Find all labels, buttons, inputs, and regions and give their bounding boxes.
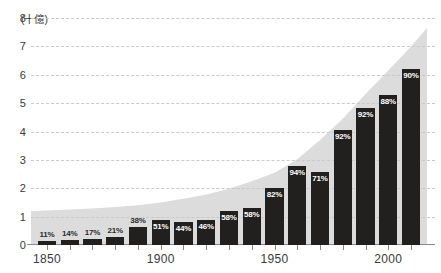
x-axis-tick [229, 245, 230, 250]
x-axis-tick [297, 245, 298, 250]
bar-group[interactable]: 21% [106, 18, 124, 245]
y-axis-tick-label: 6 [20, 69, 26, 81]
x-axis-tick-label: 1850 [33, 252, 61, 266]
plot-area: 012345678 11%14%17%21%38%51%44%46%58%58%… [31, 18, 427, 245]
x-axis-tick [92, 245, 93, 250]
x-axis-tick [115, 245, 116, 250]
bar[interactable]: 82% [265, 188, 283, 245]
bar[interactable]: 94% [288, 166, 306, 245]
y-axis-tick-label: 5 [20, 97, 26, 109]
x-axis-tick-label: 1900 [147, 252, 175, 266]
bar[interactable]: 44% [174, 222, 192, 245]
bar-group[interactable]: 94% [288, 18, 306, 245]
bar[interactable]: 90% [402, 69, 420, 245]
bar-group[interactable]: 17% [83, 18, 101, 245]
bar-value-label: 82% [265, 190, 283, 199]
bar-value-label: 51% [152, 222, 170, 231]
x-axis-tick [183, 245, 184, 250]
bar-value-label: 46% [197, 222, 215, 231]
bar-group[interactable]: 71% [311, 18, 329, 245]
y-axis-tick-label: 3 [20, 154, 26, 166]
x-axis-tick-label: 1950 [261, 252, 289, 266]
x-axis-tick-label: 2000 [374, 252, 402, 266]
bar[interactable]: 38% [129, 227, 147, 245]
bar-value-label: 21% [106, 226, 124, 235]
bar-value-label: 11% [38, 230, 56, 239]
bar[interactable]: 21% [106, 237, 124, 245]
bar-group[interactable]: 82% [265, 18, 283, 245]
bar-value-label: 38% [129, 216, 147, 225]
bar-group[interactable]: 46% [197, 18, 215, 245]
bar-series: 11%14%17%21%38%51%44%46%58%58%82%94%71%9… [31, 18, 427, 245]
y-axis-tick-label: 4 [20, 126, 26, 138]
bar-value-label: 92% [356, 110, 374, 119]
bar-value-label: 90% [402, 71, 420, 80]
bar[interactable]: 71% [311, 172, 329, 245]
bar-group[interactable]: 58% [220, 18, 238, 245]
bar-group[interactable]: 51% [152, 18, 170, 245]
x-axis-tick [252, 245, 253, 250]
bar[interactable]: 46% [197, 220, 215, 245]
bar-group[interactable]: 44% [174, 18, 192, 245]
y-axis-tick-label: 2 [20, 182, 26, 194]
bar-value-label: 58% [243, 210, 261, 219]
bar-group[interactable]: 58% [243, 18, 261, 245]
y-axis-tick-label: 8 [20, 12, 26, 24]
bar-value-label: 58% [220, 213, 238, 222]
bar-group[interactable]: 92% [356, 18, 374, 245]
bar-value-label: 94% [288, 168, 306, 177]
bar[interactable]: 58% [220, 211, 238, 245]
bar-group[interactable]: 11% [38, 18, 56, 245]
x-axis-tick [70, 245, 71, 250]
x-axis-tick [138, 245, 139, 250]
y-axis-tick-label: 0 [20, 239, 26, 251]
bar-value-label: 44% [174, 224, 192, 233]
bar[interactable]: 92% [334, 130, 352, 245]
bar[interactable]: 51% [152, 220, 170, 245]
y-axis-tick-label: 7 [20, 40, 26, 52]
x-axis-tick [206, 245, 207, 250]
bar-value-label: 92% [334, 132, 352, 141]
x-axis-tick [47, 245, 48, 250]
bar[interactable]: 88% [379, 95, 397, 245]
bar-value-label: 17% [83, 228, 101, 237]
x-axis-tick [161, 245, 162, 250]
bar-value-label: 88% [379, 97, 397, 106]
x-axis-tick [343, 245, 344, 250]
bar-group[interactable]: 92% [334, 18, 352, 245]
x-axis-tick [388, 245, 389, 250]
bar-value-label: 14% [61, 229, 79, 238]
bar-group[interactable]: 88% [379, 18, 397, 245]
bar-value-label: 71% [311, 174, 329, 183]
y-axis-tick-label: 1 [20, 211, 26, 223]
x-axis-tick [275, 245, 276, 250]
bar-group[interactable]: 38% [129, 18, 147, 245]
x-axis-tick [320, 245, 321, 250]
bar-group[interactable]: 14% [61, 18, 79, 245]
bar[interactable]: 92% [356, 108, 374, 245]
x-axis-tick [366, 245, 367, 250]
bar[interactable]: 58% [243, 208, 261, 245]
chart-container: (十億) 012345678 11%14%17%21%38%51%44%46%5… [0, 0, 441, 273]
bar-group[interactable]: 90% [402, 18, 420, 245]
x-axis-tick [411, 245, 412, 250]
